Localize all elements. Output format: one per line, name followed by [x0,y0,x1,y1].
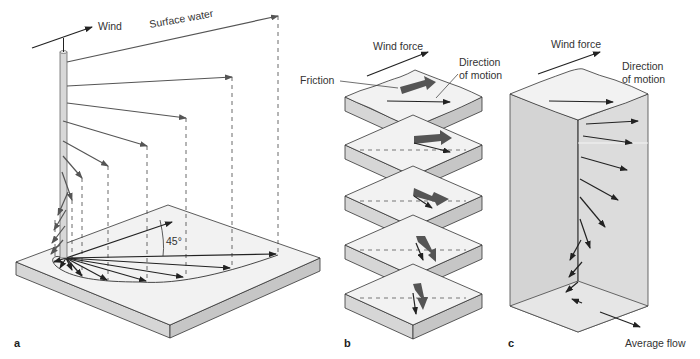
wind-force-arrow [538,52,600,74]
panel-a: 45° Wind [14,7,320,349]
panel-b: Wind force Friction Direction of motion … [300,40,502,349]
average-flow-label: Average flow [625,337,686,349]
surface-water-label: Surface water [148,7,214,30]
wind-arrow [32,27,92,48]
wind-force-label: Wind force [551,38,601,50]
friction-label: Friction [300,74,335,86]
layer-5 [345,264,482,339]
panel-label-b: b [344,337,351,349]
ekman-spiral-diagram: 45° Wind [0,0,700,359]
direction-of-motion-label-line1: Direction [459,56,501,68]
angle-label: 45° [166,235,182,247]
direction-of-motion-label-line2: of motion [459,69,502,81]
panel-label-c: c [508,337,514,349]
depth-pole [60,38,67,258]
wind-force-label: Wind force [373,40,423,52]
direction-of-motion-label-line2: of motion [622,73,665,85]
wind-label: Wind [98,20,122,32]
direction-of-motion-label-line1: Direction [622,60,664,72]
panel-label-a: a [14,337,21,349]
panel-c: Average flow Wind force Direction of mot… [508,38,686,349]
